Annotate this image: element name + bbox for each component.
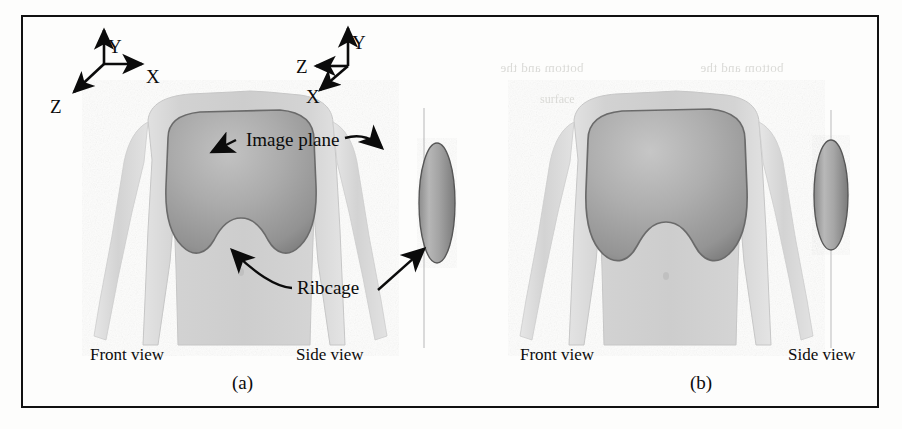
panel-a-side-view-figure [419,108,455,348]
axis-label-x-left: X [146,66,160,88]
left-arm-a [94,122,148,340]
axes-right-triad [316,28,348,90]
navel-mark-b [663,272,669,280]
axis-label-y-left: Y [108,36,122,58]
ribcage-ellipsoid-b [814,140,848,250]
subfigure-caption-a: (a) [232,372,253,394]
axis-z-left [74,64,104,92]
left-arm-b [520,122,574,340]
axis-label-y-right: Y [352,32,366,54]
panel-b-side-view-figure [814,110,848,348]
panel-b-front-view-figure [520,91,813,345]
view-label-b-front: Front view [520,345,594,365]
panel-a-front-view-figure [94,91,387,345]
ribcage-leader-right [378,249,424,290]
navel-mark-a [238,268,244,276]
axis-label-z-right: Z [296,56,308,78]
view-label-b-side: Side view [788,345,856,365]
view-label-a-side: Side view [296,345,364,365]
subfigure-caption-b: (b) [690,372,712,394]
axis-label-x-right: X [306,86,320,108]
view-label-a-front: Front view [90,345,164,365]
ribcage-ellipsoid-a [419,143,455,263]
axis-x-right [320,66,348,90]
axis-label-z-left: Z [50,96,62,118]
annotation-ribcage: Ribcage [297,277,359,299]
annotation-image-plane: Image plane [246,129,339,151]
